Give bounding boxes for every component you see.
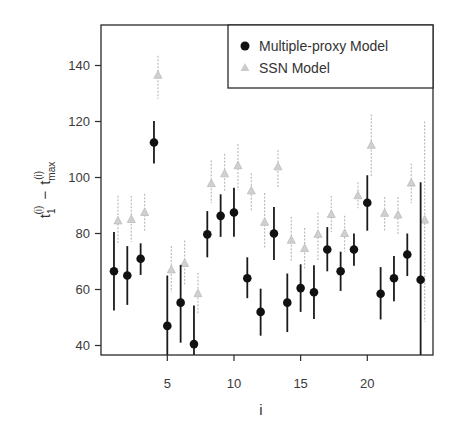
multiple-proxy-point	[390, 256, 399, 301]
multiple-proxy-point	[283, 274, 292, 333]
circle-marker-icon	[150, 138, 159, 147]
ssn-point	[234, 144, 242, 190]
ssn-point	[207, 160, 215, 203]
circle-marker-icon	[243, 274, 252, 283]
multiple-proxy-point	[190, 305, 199, 355]
circle-marker-icon	[376, 289, 385, 298]
multiple-proxy-point	[243, 257, 252, 298]
triangle-marker-icon	[341, 229, 349, 237]
circle-marker-icon	[241, 42, 250, 51]
triangle-marker-icon	[234, 161, 242, 169]
multiple-proxy-point	[176, 265, 185, 343]
ssn-point	[127, 196, 135, 242]
ssn-point	[114, 196, 122, 243]
ssn-point	[301, 228, 309, 270]
ssn-point	[394, 197, 402, 234]
multiple-proxy-point	[203, 211, 212, 257]
ssn-point	[247, 173, 255, 210]
triangle-marker-icon	[114, 216, 122, 224]
circle-marker-icon	[230, 208, 239, 217]
triangle-marker-icon	[274, 162, 282, 170]
circle-marker-icon	[336, 267, 345, 276]
legend-label: Multiple-proxy Model	[259, 38, 388, 54]
circle-marker-icon	[363, 198, 372, 207]
y-tick-label: 140	[68, 58, 90, 73]
triangle-marker-icon	[261, 218, 269, 226]
plot-area	[110, 56, 429, 355]
triangle-marker-icon	[167, 265, 175, 273]
ssn-point	[141, 194, 149, 231]
circle-marker-icon	[323, 245, 332, 254]
triangle-marker-icon	[407, 179, 415, 187]
circle-marker-icon	[203, 230, 212, 239]
multiple-proxy-point	[310, 265, 319, 319]
multiple-proxy-point	[110, 232, 119, 310]
multiple-proxy-point	[136, 243, 145, 275]
circle-marker-icon	[110, 267, 119, 276]
triangle-marker-icon	[194, 289, 202, 297]
y-tick-label: 80	[76, 226, 90, 241]
x-axis-title: i	[259, 401, 262, 418]
ssn-point	[154, 56, 162, 99]
triangle-marker-icon	[247, 186, 255, 194]
triangle-marker-icon	[301, 244, 309, 252]
triangle-marker-icon	[207, 179, 215, 187]
legend-item-multiple-proxy: Multiple-proxy Model	[241, 38, 389, 54]
multiple-proxy-point	[270, 207, 279, 260]
circle-marker-icon	[390, 274, 399, 283]
triangle-marker-icon	[381, 209, 389, 217]
circle-marker-icon	[350, 245, 359, 254]
ssn-point	[274, 150, 282, 189]
triangle-marker-icon	[421, 216, 429, 224]
circle-marker-icon	[416, 275, 425, 284]
circle-marker-icon	[296, 284, 305, 293]
triangle-marker-icon	[367, 141, 375, 149]
multiple-proxy-point	[376, 267, 385, 319]
triangle-marker-icon	[354, 191, 362, 199]
y-axis-title: t1(i)−tmax(i)	[33, 162, 57, 218]
y-tick-label: 120	[68, 114, 90, 129]
circle-marker-icon	[123, 271, 132, 280]
ssn-point	[314, 213, 322, 262]
ssn-point	[407, 164, 415, 204]
legend-box	[228, 25, 433, 88]
multiple-proxy-point	[123, 246, 132, 305]
circle-marker-icon	[256, 308, 265, 317]
triangle-marker-icon	[154, 71, 162, 79]
x-axis: 5101520	[164, 355, 375, 391]
svg-text:t1(i)−tmax(i): t1(i)−tmax(i)	[33, 162, 57, 218]
multiple-proxy-point	[403, 234, 412, 277]
ssn-point	[221, 154, 229, 191]
ssn-point	[367, 115, 375, 177]
triangle-marker-icon	[327, 210, 335, 218]
multiple-proxy-point	[150, 121, 159, 164]
ssn-point	[194, 273, 202, 314]
triangle-marker-icon	[141, 208, 149, 216]
x-tick-label: 15	[293, 376, 307, 391]
circle-marker-icon	[270, 229, 279, 238]
circle-marker-icon	[176, 298, 185, 307]
multiple-proxy-point	[163, 276, 172, 356]
multiple-proxy-point	[363, 175, 372, 230]
circle-marker-icon	[216, 212, 225, 221]
ssn-point	[167, 246, 175, 292]
multiple-proxy-point	[230, 188, 239, 237]
circle-marker-icon	[163, 322, 172, 331]
multiple-proxy-point	[216, 194, 225, 237]
ssn-point	[354, 182, 362, 208]
x-tick-label: 5	[164, 376, 171, 391]
circle-marker-icon	[190, 340, 199, 349]
triangle-marker-icon	[127, 215, 135, 223]
y-tick-label: 60	[76, 282, 90, 297]
circle-marker-icon	[403, 250, 412, 259]
multiple-proxy-point	[350, 234, 359, 266]
triangle-marker-icon	[314, 230, 322, 238]
triangle-marker-icon	[394, 211, 402, 219]
multiple-proxy-point	[336, 252, 345, 291]
ssn-point	[287, 217, 295, 262]
y-tick-label: 40	[76, 338, 90, 353]
circle-marker-icon	[136, 254, 145, 263]
circle-marker-icon	[310, 288, 319, 297]
circle-marker-icon	[283, 298, 292, 307]
legend: Multiple-proxy Model SSN Model	[228, 25, 433, 88]
